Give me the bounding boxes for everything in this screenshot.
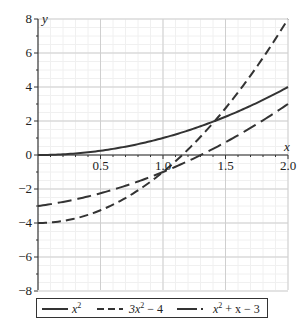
legend-dot (201, 308, 203, 310)
y-tick-label: 0 (26, 147, 33, 162)
y-tick-label: 4 (26, 79, 33, 94)
y-tick-label: 6 (26, 45, 33, 60)
y-tick-label: −8 (18, 283, 32, 298)
legend-label-2: 3x2 − 4 (128, 301, 163, 316)
x-tick-label: 1.0 (155, 158, 171, 173)
legend-label-1: x2 (71, 301, 81, 316)
y-tick-label: 8 (26, 11, 33, 26)
y-tick-label: −6 (18, 249, 32, 264)
x-tick-label: 1.5 (217, 158, 233, 173)
y-tick-label: −4 (18, 215, 32, 230)
x-axis-label: x (283, 139, 290, 154)
x-tick-label: 2.0 (280, 158, 296, 173)
legend-label-3: x2 + x − 3 (212, 301, 260, 316)
legend: x23x2 − 4x2 + x − 3 (36, 298, 268, 318)
y-tick-label: −2 (18, 181, 32, 196)
y-tick-label: 2 (26, 113, 33, 128)
axes (34, 19, 288, 291)
x-tick-label: 0.5 (92, 158, 108, 173)
plot-area: 86420−2−4−6−80.51.01.52.0yx (0, 0, 308, 300)
y-axis-label: y (40, 11, 48, 26)
